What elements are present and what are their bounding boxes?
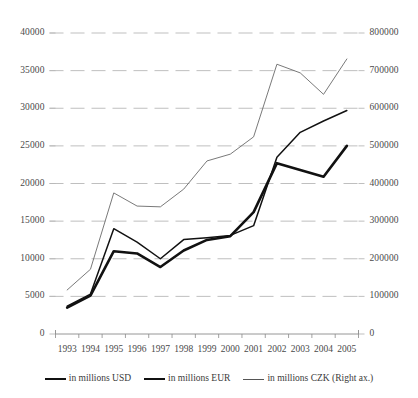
legend-label-usd: in millions USD <box>69 374 131 384</box>
y-axis-left-tick-label: 35000 <box>0 66 45 76</box>
y-axis-left-tick-label: 10000 <box>0 254 45 264</box>
y-axis-left-tick-label: 20000 <box>0 179 45 189</box>
x-axis-tick-label: 2005 <box>333 345 361 355</box>
y-axis-left-tick-label: 0 <box>0 329 45 339</box>
y-axis-right-tick-label: 100000 <box>370 291 418 301</box>
y-axis-right-tick-label: 800000 <box>370 28 418 38</box>
y-axis-left-tick-label: 25000 <box>0 141 45 151</box>
series-line-1 <box>67 146 347 308</box>
y-axis-right-tick-label: 500000 <box>370 141 418 151</box>
series-line-2 <box>67 59 347 290</box>
legend-item-eur[interactable]: in millions EUR <box>144 374 230 384</box>
y-axis-left-tick-label: 5000 <box>0 291 45 301</box>
legend-item-czk[interactable]: in millions CZK (Right ax.) <box>243 374 373 384</box>
legend-line-icon-usd <box>45 376 66 383</box>
y-axis-right-tick-label: 600000 <box>370 103 418 113</box>
legend-label-eur: in millions EUR <box>168 374 230 384</box>
y-axis-left-tick-label: 40000 <box>0 28 45 38</box>
y-axis-right-tick-label: 0 <box>370 329 418 339</box>
y-axis-right-tick-label: 300000 <box>370 216 418 226</box>
plot-area <box>0 0 418 398</box>
legend-line-icon-eur <box>144 376 165 383</box>
legend-line-icon-czk <box>243 376 264 383</box>
y-axis-right-tick-label: 200000 <box>370 254 418 264</box>
legend-label-czk: in millions CZK (Right ax.) <box>267 374 373 384</box>
legend-item-usd[interactable]: in millions USD <box>45 374 131 384</box>
x-axis-ticks <box>56 334 359 338</box>
y-axis-right-tick-label: 700000 <box>370 66 418 76</box>
y-axis-left-tick-label: 30000 <box>0 103 45 113</box>
gridlines <box>50 33 365 296</box>
y-axis-left-tick-label: 15000 <box>0 216 45 226</box>
y-axis-right-tick-label: 400000 <box>370 179 418 189</box>
chart-legend: in millions USD in millions EUR in milli… <box>0 368 418 390</box>
line-chart: 0500010000150002000025000300003500040000… <box>0 0 418 398</box>
